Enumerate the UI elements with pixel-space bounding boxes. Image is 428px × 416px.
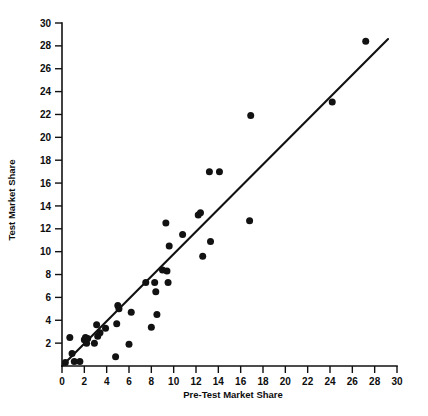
- y-tick-label: 22: [40, 109, 52, 120]
- data-point: [84, 335, 91, 342]
- y-tick-label: 18: [40, 155, 52, 166]
- regression-line: [62, 39, 388, 366]
- data-point: [165, 279, 172, 286]
- data-point: [247, 112, 254, 119]
- x-tick-label: 12: [190, 376, 202, 387]
- x-tick-label: 8: [149, 376, 155, 387]
- data-point: [115, 305, 122, 312]
- x-tick-label: 28: [369, 376, 381, 387]
- y-tick-label: 30: [40, 18, 52, 29]
- data-point: [128, 309, 135, 316]
- y-tick-label: 16: [40, 178, 52, 189]
- regression-trend-line: [62, 39, 388, 366]
- x-tick-label: 0: [59, 376, 65, 387]
- y-axis: 24681012141618202224262830: [40, 18, 62, 366]
- x-tick-label: 20: [280, 376, 292, 387]
- data-point: [148, 324, 155, 331]
- data-point: [91, 340, 98, 347]
- x-tick-label: 4: [104, 376, 110, 387]
- data-point: [102, 325, 109, 332]
- data-point: [362, 38, 369, 45]
- x-tick-label: 10: [168, 376, 180, 387]
- data-point: [93, 321, 100, 328]
- x-tick-label: 6: [126, 376, 132, 387]
- data-point: [216, 168, 223, 175]
- y-tick-label: 28: [40, 40, 52, 51]
- data-point: [112, 353, 119, 360]
- data-point: [162, 220, 169, 227]
- data-point: [152, 288, 159, 295]
- plot-canvas: 24681012141618202224262830 0246810121416…: [0, 0, 428, 416]
- data-point: [153, 311, 160, 318]
- x-axis-title: Pre-Test Market Share: [183, 389, 283, 400]
- y-tick-label: 10: [40, 246, 52, 257]
- data-point: [329, 98, 336, 105]
- x-tick-label: 14: [213, 376, 225, 387]
- data-points-group: [62, 38, 369, 366]
- y-tick-label: 26: [40, 63, 52, 74]
- data-point: [179, 231, 186, 238]
- x-tick-label: 26: [347, 376, 359, 387]
- y-tick-label: 12: [40, 223, 52, 234]
- data-point: [199, 253, 206, 260]
- data-point: [96, 329, 103, 336]
- y-tick-label: 8: [45, 269, 51, 280]
- y-tick-label: 20: [40, 132, 52, 143]
- data-point: [66, 334, 73, 341]
- data-point: [206, 168, 213, 175]
- x-tick-label: 2: [82, 376, 88, 387]
- data-point: [197, 209, 204, 216]
- x-tick-label: 16: [235, 376, 247, 387]
- x-tick-label: 30: [391, 376, 403, 387]
- data-point: [246, 217, 253, 224]
- data-point: [113, 320, 120, 327]
- data-point: [163, 268, 170, 275]
- x-axis: 024681012141618202224262830: [59, 366, 403, 387]
- y-tick-label: 14: [40, 201, 52, 212]
- data-point: [207, 238, 214, 245]
- data-point: [151, 279, 158, 286]
- y-tick-label: 4: [45, 315, 51, 326]
- data-point: [62, 359, 69, 366]
- data-point: [76, 358, 83, 365]
- y-tick-label: 24: [40, 86, 52, 97]
- x-tick-label: 22: [302, 376, 314, 387]
- data-point: [69, 350, 76, 357]
- x-tick-label: 18: [257, 376, 269, 387]
- data-point: [142, 279, 149, 286]
- y-axis-title: Test Market Share: [6, 159, 17, 240]
- data-point: [166, 242, 173, 249]
- y-tick-label: 2: [45, 338, 51, 349]
- scatter-plot-figure: 24681012141618202224262830 0246810121416…: [0, 0, 428, 416]
- x-tick-label: 24: [324, 376, 336, 387]
- y-tick-label: 6: [45, 292, 51, 303]
- data-point: [126, 341, 133, 348]
